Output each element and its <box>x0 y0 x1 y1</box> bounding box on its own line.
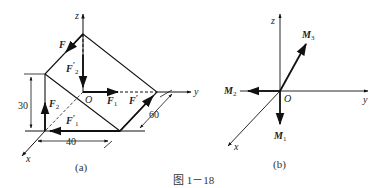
force-F2-label: F2 <box>48 98 60 111</box>
dim-30-label: 30 <box>18 100 28 111</box>
moment-M1-label: M1 <box>273 130 287 143</box>
force-F-prime-label: F′ <box>128 94 138 106</box>
force-F2-prime-label: F′2 <box>65 61 79 76</box>
moment-M3-arrow <box>280 44 306 91</box>
force-F-label: F <box>58 39 66 50</box>
figure-caption: 图 1－18 <box>173 174 215 186</box>
x-axis-label: x <box>25 153 31 164</box>
moment-M3-label: M3 <box>301 29 315 42</box>
origin-label: O <box>284 93 291 104</box>
y-axis-label: y <box>362 94 368 105</box>
dim-60-label: 60 <box>149 109 159 120</box>
z-axis-label: z <box>270 15 275 26</box>
force-F1-label: F1 <box>106 95 118 108</box>
figure-canvas: z y x O F F′2 F1 F′ F2 F′1 30 40 60 (a) … <box>0 0 385 188</box>
panel-b: z y x O M3 M2 M1 (b) <box>223 14 368 171</box>
z-axis-label: z <box>74 10 79 21</box>
panel-a-caption: (a) <box>75 161 88 174</box>
moment-M2-label: M2 <box>223 85 237 98</box>
origin-label: O <box>85 94 92 105</box>
dim-40-tick-right <box>104 141 112 148</box>
panel-a: z y x O F F′2 F1 F′ F2 F′1 30 40 60 (a) <box>18 10 199 174</box>
force-F-arrow <box>66 34 83 52</box>
x-axis-label: x <box>233 141 239 152</box>
panel-b-caption: (b) <box>273 158 286 171</box>
dim-40-label: 40 <box>66 136 76 147</box>
y-axis-label: y <box>193 86 199 97</box>
force-F1-prime-label: F′1 <box>65 114 79 128</box>
x-axis <box>228 91 280 146</box>
